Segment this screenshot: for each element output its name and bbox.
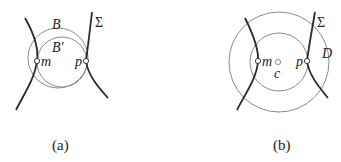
panel-a: B B′ Σ m p (a) — [16, 12, 108, 154]
label-p: p — [295, 54, 303, 69]
label-c: c — [274, 66, 281, 81]
label-d: D — [321, 46, 332, 61]
label-m: m — [262, 54, 272, 69]
label-sigma: Σ — [95, 15, 103, 30]
surface-left-branch — [16, 18, 37, 110]
panel-b: Σ D m c p (b) — [229, 12, 332, 154]
center-c-marker — [275, 59, 280, 64]
label-m: m — [41, 54, 51, 69]
figure: B B′ Σ m p (a) Σ D m c p (b) — [0, 0, 341, 162]
point-m-marker — [255, 58, 260, 63]
label-p: p — [74, 54, 82, 69]
caption-a: (a) — [52, 137, 69, 154]
label-b-prime: B′ — [52, 40, 65, 55]
label-b: B — [52, 17, 61, 32]
label-sigma: Σ — [317, 15, 325, 30]
caption-b: (b) — [273, 137, 291, 154]
point-p-marker — [304, 58, 309, 63]
point-m-marker — [34, 58, 39, 63]
surface-left-branch — [237, 18, 258, 110]
point-p-marker — [83, 58, 88, 63]
